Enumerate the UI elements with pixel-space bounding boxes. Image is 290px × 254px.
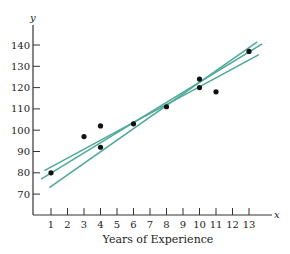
x-tick-label: 7 xyxy=(147,219,153,230)
x-tick-label: 12 xyxy=(226,219,239,230)
data-point xyxy=(98,145,103,150)
x-tick-label: 2 xyxy=(64,219,70,230)
y-tick-label: 120 xyxy=(11,82,30,93)
x-tick-label: 3 xyxy=(81,219,87,230)
fit-line xyxy=(44,55,259,171)
fit-line xyxy=(49,42,257,188)
scatter-chart: 70809010011012013014012345678910111213 y… xyxy=(0,0,290,254)
y-tick-label: 90 xyxy=(17,146,30,157)
x-tick-label: 8 xyxy=(163,219,169,230)
y-tick-label: 110 xyxy=(11,103,30,114)
x-axis-name: x xyxy=(274,209,280,220)
y-tick-label: 70 xyxy=(17,189,30,200)
x-tick-label: 1 xyxy=(48,219,54,230)
x-tick-label: 4 xyxy=(97,219,103,230)
x-tick-label: 10 xyxy=(193,219,206,230)
axes: 70809010011012013014012345678910111213 xyxy=(11,25,272,230)
data-point xyxy=(246,49,251,54)
data-point xyxy=(131,121,136,126)
x-tick-label: 11 xyxy=(210,219,223,230)
x-tick-label: 9 xyxy=(180,219,186,230)
data-point xyxy=(213,89,218,94)
data-point xyxy=(197,76,202,81)
fit-lines xyxy=(41,42,262,188)
y-tick-label: 100 xyxy=(11,125,30,136)
y-axis-name: y xyxy=(29,12,36,23)
x-tick-label: 13 xyxy=(243,219,256,230)
data-point xyxy=(98,123,103,128)
data-point xyxy=(48,170,53,175)
y-tick-label: 130 xyxy=(11,61,30,72)
fit-line xyxy=(41,44,262,179)
x-axis-label: Years of Experience xyxy=(102,233,214,246)
x-tick-label: 5 xyxy=(114,219,120,230)
x-tick-label: 6 xyxy=(130,219,136,230)
data-point xyxy=(164,104,169,109)
data-point xyxy=(81,134,86,139)
y-tick-label: 80 xyxy=(17,167,30,178)
data-point xyxy=(197,85,202,90)
y-tick-label: 140 xyxy=(11,40,30,51)
